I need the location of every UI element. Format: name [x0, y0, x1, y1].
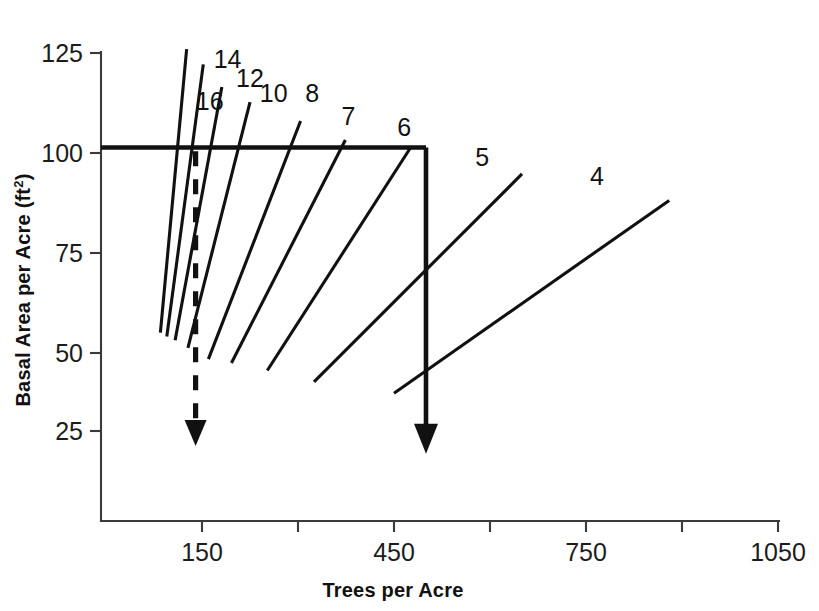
chart-container: 125 100 75 50 25 150 450 750 1050 161412…	[0, 0, 819, 611]
solid-arrow-annotation	[414, 148, 438, 454]
site-index-label-4: 4	[590, 162, 604, 190]
y-axis-ticks	[90, 53, 101, 431]
x-axis-ticks	[202, 521, 778, 532]
site-index-label-group: 1614121087654	[196, 45, 604, 190]
y-axis-title-main: Basal Area per Acre (ft	[12, 188, 34, 407]
site-index-line-6	[267, 148, 410, 371]
dashed-arrow-head-icon	[185, 420, 207, 446]
y-tick-label-75: 75	[55, 239, 83, 267]
x-axis-title: Trees per Acre	[322, 579, 463, 601]
site-index-line-4	[394, 200, 669, 393]
solid-arrow-head-icon	[414, 424, 438, 454]
x-tick-label-150: 150	[181, 538, 223, 566]
y-axis-title-end: )	[12, 173, 34, 180]
site-index-label-5: 5	[475, 143, 489, 171]
site-index-label-7: 7	[342, 102, 356, 130]
y-tick-label-25: 25	[55, 417, 83, 445]
site-index-label-10: 10	[260, 79, 288, 107]
site-index-line-5	[314, 174, 522, 382]
y-tick-label-100: 100	[41, 139, 83, 167]
x-tick-label-750: 750	[565, 538, 607, 566]
site-index-line-8	[208, 121, 300, 359]
y-axis-title-superscript: 2	[11, 180, 26, 187]
y-tick-label-50: 50	[55, 339, 83, 367]
site-index-label-8: 8	[305, 79, 319, 107]
site-index-chart: 125 100 75 50 25 150 450 750 1050 161412…	[0, 0, 819, 611]
y-tick-label-125: 125	[41, 39, 83, 67]
site-index-label-6: 6	[397, 113, 411, 141]
x-tick-label-450: 450	[373, 538, 415, 566]
y-axis-title: Basal Area per Acre (ft2)	[11, 173, 34, 406]
x-tick-label-1050: 1050	[750, 538, 806, 566]
svg-text:Basal Area per Acre (ft2): Basal Area per Acre (ft2)	[11, 173, 34, 406]
site-index-label-16: 16	[196, 87, 224, 115]
site-index-line-group	[160, 49, 669, 393]
